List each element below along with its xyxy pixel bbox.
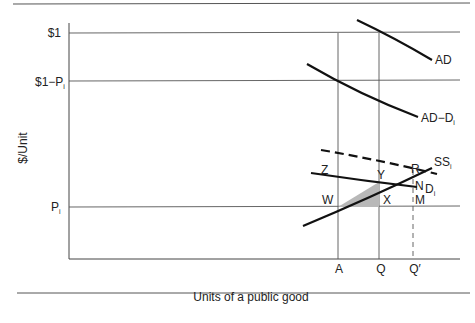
- one-dollar-line: [69, 32, 460, 33]
- y-tick-one-dollar: $1: [48, 26, 62, 40]
- x-tick-q: Q: [376, 262, 385, 276]
- ad-minus-di-curve: [307, 64, 418, 117]
- y-axis-label: $/Unit: [16, 132, 30, 164]
- point-x-label: X: [383, 193, 391, 207]
- y-tick-one-minus-pi: $1−Pi: [35, 75, 65, 90]
- ssi-label: SSi: [434, 155, 452, 170]
- top-rule: [13, 3, 470, 4]
- ad-label: AD: [435, 53, 452, 67]
- one-minus-pi-line: [69, 80, 460, 81]
- di-label: Di: [425, 182, 436, 197]
- point-y-label: Y: [377, 168, 385, 182]
- public-good-diagram: $1 $1−Pi Pi $/Unit A Q Q′ Units of a pub…: [0, 0, 475, 323]
- point-n-label: N: [415, 179, 424, 193]
- point-z-label: Z: [321, 163, 328, 177]
- point-r-label: R: [411, 162, 420, 176]
- y-tick-pi: Pi: [51, 200, 61, 215]
- x-axis-label: Units of a public good: [193, 290, 308, 304]
- point-w-label: W: [322, 193, 334, 207]
- ad-curve: [357, 20, 432, 60]
- x-tick-a: A: [335, 262, 343, 276]
- point-m-label: M: [415, 193, 425, 207]
- ad-minus-di-label: AD−Di: [421, 111, 455, 126]
- pi-line: [69, 206, 460, 207]
- x-tick-q-prime: Q′: [409, 262, 421, 276]
